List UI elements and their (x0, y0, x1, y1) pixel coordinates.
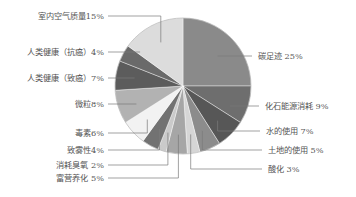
pie-slice-0 (183, 18, 251, 86)
slice-label-1: 化石能源消耗 9% (265, 101, 329, 111)
slice-label-2: 水的使用 7% (266, 126, 314, 136)
slice-label-9: 微粒8% (75, 99, 104, 109)
pie-slices (115, 18, 251, 154)
slice-label-5: 富营养化 5% (56, 173, 104, 183)
slice-label-7: 致雾性4% (67, 145, 104, 155)
slice-label-0: 碳足迹 25% (258, 51, 303, 61)
slice-label-10: 人类健康（致癌）7% (27, 73, 104, 83)
pie-chart: 碳足迹 25%化石能源消耗 9%水的使用 7%土地的使用 5%酸化 3%富营养化… (0, 0, 356, 197)
slice-label-6: 消耗臭氧 2% (56, 160, 104, 170)
slice-label-12: 室内空气质量15% (38, 11, 104, 21)
slice-label-4: 酸化 3% (268, 164, 300, 174)
slice-label-11: 人类健康（抗癌）4% (27, 47, 104, 57)
slice-label-3: 土地的使用 5% (268, 145, 324, 155)
slice-label-8: 毒素6% (75, 128, 104, 138)
